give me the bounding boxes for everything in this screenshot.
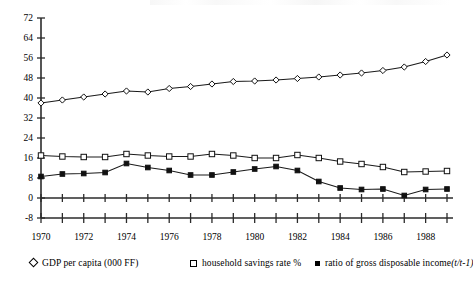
square-open-marker-icon xyxy=(209,151,214,156)
square-filled-marker-icon xyxy=(39,174,44,179)
x-axis-tick-label: 1984 xyxy=(331,232,350,242)
square-filled-marker-icon xyxy=(315,261,320,266)
square-filled-marker-icon xyxy=(295,168,300,173)
square-open-marker-icon xyxy=(295,152,300,157)
square-open-marker-icon xyxy=(380,164,385,169)
diamond-open-marker-icon xyxy=(294,75,300,81)
y-axis-tick-label: -8 xyxy=(25,213,33,223)
diamond-open-marker-icon xyxy=(252,78,258,84)
square-open-marker-icon xyxy=(38,153,43,158)
square-open-marker-icon xyxy=(444,168,449,173)
x-axis-tick-label: 1970 xyxy=(32,232,51,242)
square-open-marker-icon xyxy=(273,155,278,160)
square-open-marker-icon xyxy=(167,154,172,159)
square-open-marker-icon xyxy=(145,153,150,158)
legend-label-gross-disposable-income-ratio: ratio of gross disposable income xyxy=(325,258,451,268)
y-axis-tick-label: 56 xyxy=(24,53,34,63)
y-axis-tick-label: 16 xyxy=(24,153,34,163)
square-filled-marker-icon xyxy=(423,187,428,192)
x-axis-tick-label: 1972 xyxy=(74,232,93,242)
square-filled-marker-icon xyxy=(103,170,108,175)
square-open-marker-icon xyxy=(124,151,129,156)
square-open-marker-icon xyxy=(60,154,65,159)
x-axis-tick-label: 1982 xyxy=(288,232,307,242)
square-open-marker-icon xyxy=(423,169,428,174)
square-filled-marker-icon xyxy=(316,179,321,184)
y-axis-tick-label: 64 xyxy=(24,33,34,43)
legend-note-gross-disposable-income-ratio: (t/t-1) xyxy=(451,258,473,268)
diamond-open-marker-icon xyxy=(401,64,407,70)
diamond-open-marker-icon xyxy=(145,89,151,95)
diamond-open-marker-icon xyxy=(209,81,215,87)
series-household-savings-rate xyxy=(38,151,449,174)
legend-item-gross-disposable-income-ratio: ratio of gross disposable income (t/t-1) xyxy=(315,258,473,268)
square-open-marker-icon xyxy=(231,153,236,158)
square-filled-marker-icon xyxy=(231,170,236,175)
diamond-open-marker-icon xyxy=(81,94,87,100)
y-axis-tick-label: 72 xyxy=(24,13,34,23)
square-open-marker-icon xyxy=(188,154,193,159)
diamond-open-marker-icon xyxy=(29,258,39,268)
legend-item-household-savings-rate: household savings rate % xyxy=(190,258,301,268)
square-open-marker-icon xyxy=(102,154,107,159)
square-filled-marker-icon xyxy=(188,173,193,178)
square-filled-marker-icon xyxy=(167,168,172,173)
square-filled-marker-icon xyxy=(81,171,86,176)
square-filled-marker-icon xyxy=(445,187,450,192)
square-filled-marker-icon xyxy=(60,172,65,177)
series-line-household-savings-rate xyxy=(41,154,447,172)
square-filled-marker-icon xyxy=(381,187,386,192)
series-gdp-per-capita xyxy=(38,52,450,106)
x-axis-tick-label: 1986 xyxy=(373,232,392,242)
series-line-gdp-per-capita xyxy=(41,55,447,103)
square-filled-marker-icon xyxy=(402,193,407,198)
x-axis-tick-label: 1974 xyxy=(117,232,136,242)
square-filled-marker-icon xyxy=(210,173,215,178)
square-filled-marker-icon xyxy=(124,161,129,166)
legend-item-gdp-per-capita: GDP per capita (000 FF) xyxy=(30,258,138,268)
y-axis-tick-label: 48 xyxy=(24,73,34,83)
square-filled-marker-icon xyxy=(338,186,343,191)
square-filled-marker-icon xyxy=(274,164,279,169)
diamond-open-marker-icon xyxy=(166,85,172,91)
square-open-marker-icon xyxy=(337,159,342,164)
legend-label-gdp-per-capita: GDP per capita (000 FF) xyxy=(42,258,138,268)
square-open-marker-icon xyxy=(190,260,197,267)
y-axis-tick-label: 8 xyxy=(28,173,33,183)
y-axis-tick-label: 32 xyxy=(24,113,34,123)
diamond-open-marker-icon xyxy=(38,100,44,106)
x-axis-tick-label: 1978 xyxy=(202,232,221,242)
diamond-open-marker-icon xyxy=(358,70,364,76)
y-axis-tick-label: 40 xyxy=(24,93,34,103)
diamond-open-marker-icon xyxy=(102,91,108,97)
diamond-open-marker-icon xyxy=(59,97,65,103)
chart-legend: GDP per capita (000 FF) household saving… xyxy=(0,252,460,274)
diamond-open-marker-icon xyxy=(423,58,429,64)
x-axis-tick-label: 1976 xyxy=(160,232,179,242)
diamond-open-marker-icon xyxy=(187,83,193,89)
square-open-marker-icon xyxy=(252,155,257,160)
square-open-marker-icon xyxy=(359,161,364,166)
square-open-marker-icon xyxy=(316,155,321,160)
square-filled-marker-icon xyxy=(146,165,151,170)
diamond-open-marker-icon xyxy=(337,72,343,78)
y-axis-tick-label: 0 xyxy=(28,193,33,203)
square-filled-marker-icon xyxy=(252,167,257,172)
diamond-open-marker-icon xyxy=(123,88,129,94)
x-axis-tick-label: 1980 xyxy=(245,232,264,242)
legend-label-household-savings-rate: household savings rate % xyxy=(202,258,301,268)
square-open-marker-icon xyxy=(81,154,86,159)
series-gross-disposable-income-ratio xyxy=(39,161,450,198)
x-axis-tick-label: 1988 xyxy=(416,232,435,242)
diamond-open-marker-icon xyxy=(230,78,236,84)
square-filled-marker-icon xyxy=(359,187,364,192)
diamond-open-marker-icon xyxy=(380,67,386,73)
y-axis-tick-label: 24 xyxy=(24,133,34,143)
diamond-open-marker-icon xyxy=(444,52,450,58)
diamond-open-marker-icon xyxy=(316,74,322,80)
square-open-marker-icon xyxy=(402,169,407,174)
diamond-open-marker-icon xyxy=(273,77,279,83)
